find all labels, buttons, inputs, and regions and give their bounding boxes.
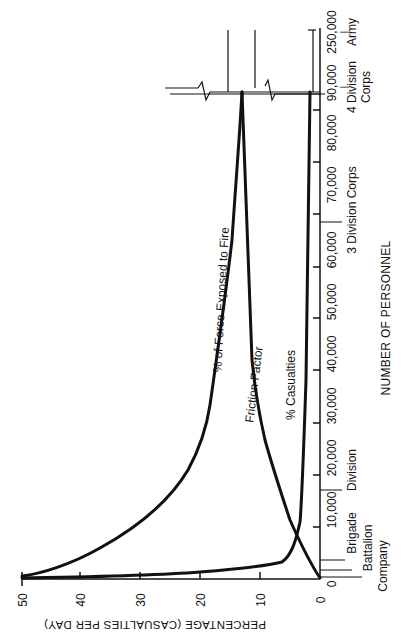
curve-labels: % of Force Exposed to Fire Friction Fact… — [210, 227, 298, 424]
chart-svg: 50 40 30 20 10 0 PERCENTAGE (CASUALTIES … — [0, 0, 407, 636]
tick-divider-250k: | — [339, 31, 349, 33]
casualty-chart: 50 40 30 20 10 0 PERCENTAGE (CASUALTIES … — [0, 0, 407, 636]
x-axis-label: NUMBER OF PERSONNEL — [379, 240, 393, 395]
y-tick-20: 20 — [194, 593, 208, 607]
curve-casualties — [22, 92, 310, 578]
curve-force-exposed — [22, 92, 242, 576]
unit-4-division-corps: Corps — [359, 71, 373, 103]
y-tick-10: 10 — [254, 593, 268, 607]
tick-divider-90k: | — [339, 86, 349, 88]
label-casualties: % Casualties — [284, 350, 298, 420]
y-tick-50: 50 — [16, 593, 30, 607]
personnel-tick-labels: 0 10,000 20,000 30,000 40,000 50,000 60,… — [325, 10, 339, 587]
y-tick-40: 40 — [74, 593, 88, 607]
x-tick-0: 0 — [325, 580, 339, 587]
unit-division: Division — [345, 449, 359, 491]
unit-brigade: Brigade — [345, 512, 359, 554]
unit-3-division-corps: 3 Division Corps — [345, 166, 359, 253]
curves — [22, 92, 320, 578]
x-tick-10000: 10,000 — [325, 491, 339, 528]
label-friction: Friction Factor — [242, 346, 265, 424]
axis-break-markers — [165, 30, 325, 100]
y-tick-0: 0 — [314, 596, 328, 603]
x-tick-70000: 70,000 — [325, 166, 339, 203]
y-axis-label: PERCENTAGE (CASUALTIES PER DAY) — [44, 619, 266, 631]
x-tick-60000: 60,000 — [325, 231, 339, 268]
x-tick-50000: 50,000 — [325, 283, 339, 320]
x-tick-40000: 40,000 — [325, 335, 339, 372]
label-force-exposed: % of Force Exposed to Fire — [210, 227, 232, 373]
x-tick-250000: 250,000 — [325, 10, 339, 54]
y-tick-30: 30 — [134, 593, 148, 607]
unit-company: Company — [376, 540, 390, 591]
percentage-tick-labels: 50 40 30 20 10 0 — [16, 593, 328, 607]
x-tick-30000: 30,000 — [325, 387, 339, 424]
unit-battalion: Battalion — [361, 525, 375, 572]
x-tick-80000: 80,000 — [325, 114, 339, 151]
x-tick-90000: 90,000 — [325, 64, 339, 101]
x-tick-20000: 20,000 — [325, 439, 339, 476]
